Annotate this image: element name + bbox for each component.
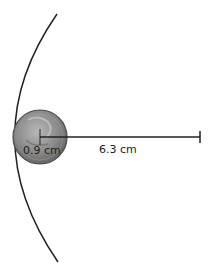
coin-diameter-label: 0.9 cm xyxy=(23,144,61,157)
diagram-canvas: 0.9 cm 6.3 cm xyxy=(0,0,210,273)
distance-label: 6.3 cm xyxy=(99,143,137,156)
